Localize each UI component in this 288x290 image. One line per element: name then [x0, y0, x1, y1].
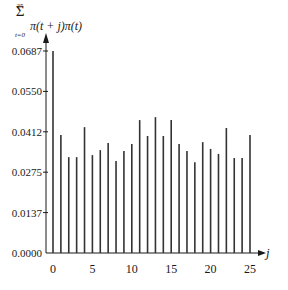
y-tick-label: 0.0275	[12, 166, 42, 178]
y-tick-label: 0.0550	[12, 85, 42, 97]
stem-chart: Σ 25 t=0 π(t + j)π(t) 0.00000.01370.0275…	[0, 0, 288, 290]
y-tick-label: 0.0687	[12, 45, 42, 57]
y-tick-label: 0.0000	[12, 247, 42, 259]
x-tick-label: 25	[244, 262, 256, 277]
plot-area	[0, 0, 288, 290]
x-tick-label: 0	[50, 262, 56, 277]
x-axis-label: j	[266, 245, 270, 261]
x-axis-arrow-icon	[258, 250, 266, 256]
y-axis-arrow-icon	[43, 33, 49, 43]
x-tick-label: 5	[89, 262, 95, 277]
x-tick-label: 20	[205, 262, 217, 277]
y-tick-label: 0.0412	[12, 126, 42, 138]
x-tick-label: 15	[165, 262, 177, 277]
y-tick-label: 0.0137	[12, 207, 42, 219]
x-tick-label: 10	[126, 262, 138, 277]
